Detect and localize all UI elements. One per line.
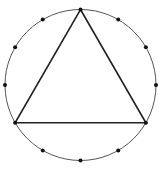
circle-point-dot: [41, 148, 45, 152]
circle-point-dot: [154, 83, 158, 87]
circle-point-dot: [116, 148, 120, 152]
circle-point-dot: [79, 8, 83, 12]
circle-point-dot: [3, 83, 7, 87]
circle-point-dot: [41, 18, 45, 22]
circumscribed-circle: [5, 10, 156, 161]
circle-points: [3, 8, 158, 163]
circle-point-dot: [144, 45, 148, 49]
circle-point-dot: [13, 45, 17, 49]
inscribed-equilateral-triangle: [15, 10, 146, 123]
circle-triangle-diagram: [0, 0, 164, 174]
circle-point-dot: [79, 159, 83, 163]
circle-point-dot: [116, 18, 120, 22]
circle-point-dot: [13, 121, 17, 125]
circle-point-dot: [144, 121, 148, 125]
